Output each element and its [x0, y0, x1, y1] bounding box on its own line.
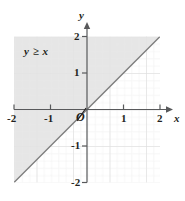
x-tick-label-neg2: -2 [7, 113, 16, 124]
x-tick-label-pos2: 2 [157, 113, 163, 124]
origin-label: O [76, 111, 85, 123]
x-axis-label: x [174, 113, 180, 124]
region-inequality-label: y ≥ x [24, 46, 48, 57]
y-tick-label-neg2: -2 [71, 177, 80, 188]
y-tick-label-neg1: -1 [71, 140, 80, 151]
x-tick-label-neg1: -1 [44, 113, 53, 124]
y-axis-label: y [79, 10, 84, 21]
x-tick-label-pos1: 1 [121, 113, 127, 124]
y-tick-label-pos1: 1 [74, 67, 80, 78]
graph-figure: -2 -1 1 2 2 1 -1 -2 x y O y ≥ x [0, 0, 185, 201]
y-tick-label-pos2: 2 [74, 31, 80, 42]
coordinate-plane [0, 0, 185, 201]
